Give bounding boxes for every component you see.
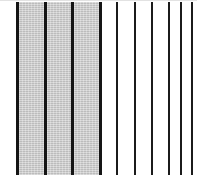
- shaded-band: [47, 2, 71, 175]
- vertical-line: [99, 2, 102, 175]
- shaded-band: [19, 2, 44, 175]
- shaded-band: [74, 2, 99, 175]
- top-rule: [0, 0, 197, 1]
- vertical-line: [44, 2, 47, 175]
- vertical-line: [191, 2, 193, 175]
- vertical-line: [151, 2, 153, 175]
- vertical-line: [71, 2, 74, 175]
- vertical-line: [168, 2, 170, 175]
- figure-root: Vertical line pattern with shaded left r…: [0, 0, 197, 177]
- vertical-line: [180, 2, 182, 175]
- vertical-line: [116, 2, 118, 175]
- vertical-line: [134, 2, 136, 175]
- vertical-line: [16, 2, 19, 175]
